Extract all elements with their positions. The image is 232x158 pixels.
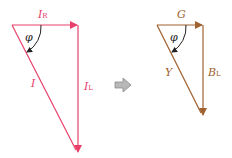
il-label: IL bbox=[84, 80, 93, 93]
admittance-triangle bbox=[157, 25, 203, 115]
y-label: Y bbox=[165, 66, 172, 79]
g-label: G bbox=[177, 8, 186, 21]
y-hypotenuse bbox=[157, 25, 201, 113]
i-hypotenuse bbox=[12, 25, 76, 150]
current-triangle bbox=[12, 25, 78, 152]
phi-label-left: φ bbox=[25, 31, 33, 44]
ir-label: IR bbox=[38, 8, 48, 21]
i-label: I bbox=[31, 77, 35, 90]
bl-label: BL bbox=[208, 66, 221, 79]
transform-arrow-icon bbox=[115, 78, 131, 92]
phi-label-right: φ bbox=[170, 31, 178, 44]
